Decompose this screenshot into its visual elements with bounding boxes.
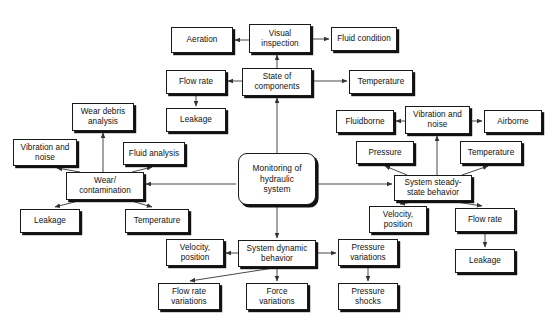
node-force-variations[interactable]: Force variations (246, 283, 308, 310)
node-flow-rate-top[interactable]: Flow rate (166, 70, 226, 94)
node-pressure-variations[interactable]: Pressure variations (338, 239, 398, 266)
node-flow-rate-ss[interactable]: Flow rate (455, 208, 515, 232)
node-vibration-noise-l[interactable]: Vibration and noise (13, 139, 77, 166)
node-pressure-ss[interactable]: Pressure (356, 141, 414, 164)
node-temperature-top[interactable]: Temperature (349, 70, 413, 94)
node-temperature-ss[interactable]: Temperature (460, 141, 522, 164)
node-steady-state[interactable]: System steady- state behavior (394, 175, 472, 201)
edge-e-steady-flowrate (450, 201, 482, 206)
node-wear-contamination[interactable]: Wear/ contamination (66, 172, 144, 200)
node-visual-inspection[interactable]: Visual inspection (249, 24, 311, 53)
node-monitoring-central[interactable]: Monitoring of hydraulic system (238, 153, 316, 205)
node-velocity-ss[interactable]: Velocity, position (369, 206, 427, 233)
node-leakage-top[interactable]: Leakage (166, 108, 226, 132)
node-state-of-components[interactable]: State of components (242, 68, 312, 96)
node-vibration-noise-r[interactable]: Vibration and noise (405, 106, 470, 134)
edge-e-wear-temperature (128, 200, 152, 207)
node-fluid-condition[interactable]: Fluid condition (331, 27, 397, 51)
node-leakage-left[interactable]: Leakage (20, 209, 80, 233)
node-velocity-dyn[interactable]: Velocity, position (166, 239, 224, 266)
node-temperature-left[interactable]: Temperature (125, 209, 189, 233)
edge-e-wear-leakage (55, 200, 82, 207)
node-wear-debris[interactable]: Wear debris analysis (72, 103, 134, 131)
node-leakage-ss[interactable]: Leakage (455, 249, 515, 273)
node-pressure-shocks[interactable]: Pressure shocks (338, 283, 398, 310)
node-airborne[interactable]: Airborne (484, 110, 542, 133)
edge-e-steady-temperature (462, 166, 488, 175)
edge-e-steady-velocity (400, 201, 419, 204)
node-system-dynamic[interactable]: System dynamic behavior (238, 240, 316, 267)
node-flow-rate-variations[interactable]: Flow rate variations (158, 283, 220, 310)
node-aeration[interactable]: Aeration (171, 27, 233, 53)
edge-e-dynamic-flowratevar (190, 267, 280, 281)
node-fluidborne[interactable]: Fluidborne (336, 110, 394, 133)
edge-e-steady-pressure (385, 166, 407, 175)
node-fluid-analysis[interactable]: Fluid analysis (123, 142, 185, 165)
hydraulic-monitoring-diagram: AerationVisual inspectionFluid condition… (0, 0, 554, 327)
